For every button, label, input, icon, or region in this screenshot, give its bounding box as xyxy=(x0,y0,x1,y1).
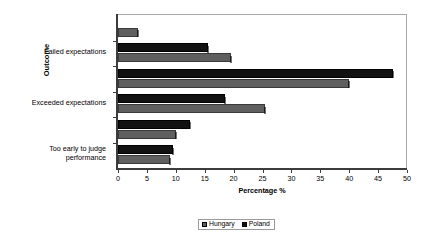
y-axis-tick xyxy=(113,41,117,42)
x-axis-tick-label: 35 xyxy=(308,174,332,183)
bar-hungary xyxy=(118,155,170,164)
x-axis-tick-label: 15 xyxy=(193,174,217,183)
x-axis-tick xyxy=(407,170,408,173)
chart-legend: Hungary Poland xyxy=(198,219,275,230)
legend-label-poland: Poland xyxy=(249,220,270,228)
bar-chart: Outcome Failed expectationsExceeded expe… xyxy=(0,0,426,245)
x-axis-tick xyxy=(147,170,148,173)
x-axis-tick-label: 10 xyxy=(164,174,188,183)
bar-poland xyxy=(118,120,190,129)
y-axis-category-labels: Failed expectationsExceeded expectations… xyxy=(10,14,108,169)
x-axis-tick xyxy=(320,170,321,173)
x-axis-tick-label: 0 xyxy=(106,174,130,183)
y-axis-category-label: Exceeded expectations xyxy=(10,99,106,108)
legend-swatch-hungary-icon xyxy=(202,222,207,227)
y-axis-tick xyxy=(113,117,117,118)
x-axis-tick-label: 50 xyxy=(395,174,419,183)
x-axis-tick xyxy=(349,170,350,173)
x-axis-tick xyxy=(263,170,264,173)
x-axis-tick-label: 45 xyxy=(366,174,390,183)
legend-item-hungary: Hungary xyxy=(202,220,235,228)
x-axis-tick-label: 5 xyxy=(135,174,159,183)
bar-poland xyxy=(118,69,393,78)
legend-label-hungary: Hungary xyxy=(209,220,235,228)
legend-swatch-poland-icon xyxy=(242,222,247,227)
bar-poland xyxy=(118,94,225,103)
y-axis-category-label: Too early to judgeperformance xyxy=(10,145,106,162)
bar-hungary xyxy=(118,79,349,88)
legend-item-poland: Poland xyxy=(242,220,270,228)
x-axis-tick xyxy=(378,170,379,173)
x-axis-tick xyxy=(291,170,292,173)
y-axis-category-label: Failed expectations xyxy=(10,48,106,57)
x-axis-title: Percentage % xyxy=(117,186,407,195)
bar-hungary xyxy=(118,28,138,37)
x-axis-tick xyxy=(205,170,206,173)
bar-poland xyxy=(118,145,173,154)
bar-poland xyxy=(118,43,208,52)
x-axis-tick xyxy=(234,170,235,173)
y-axis-tick xyxy=(113,66,117,67)
x-axis-tick-label: 30 xyxy=(279,174,303,183)
bar-hungary xyxy=(118,53,231,62)
y-axis-tick xyxy=(113,143,117,144)
x-axis-line xyxy=(116,168,407,170)
x-axis-tick-label: 20 xyxy=(222,174,246,183)
x-axis-tick xyxy=(176,170,177,173)
y-axis-tick xyxy=(113,92,117,93)
bar-hungary xyxy=(118,104,265,113)
x-axis-tick-label: 25 xyxy=(251,174,275,183)
x-axis-tick-label: 40 xyxy=(337,174,361,183)
bars-layer xyxy=(118,15,407,168)
x-axis-tick xyxy=(118,170,119,173)
bar-hungary xyxy=(118,130,176,139)
